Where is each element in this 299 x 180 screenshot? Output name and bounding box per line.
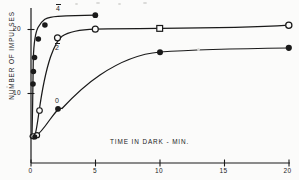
data-point xyxy=(31,69,37,75)
curve-label-0-text: 0 xyxy=(55,97,59,104)
curve-label-2-text: 2 xyxy=(55,44,59,51)
data-point xyxy=(157,49,163,55)
x-axis-title: TIME IN DARK - MIN. xyxy=(110,138,189,145)
y-tick-label-10: 10 xyxy=(13,89,21,96)
data-point xyxy=(37,108,43,114)
data-point xyxy=(30,81,36,87)
data-point xyxy=(32,134,37,139)
data-point xyxy=(286,22,292,28)
scan-speck xyxy=(75,3,78,5)
x-tick-label-20: 20 xyxy=(284,167,292,174)
scan-speck xyxy=(6,86,8,88)
x-tick-label-15: 15 xyxy=(220,167,228,174)
scan-speck xyxy=(143,2,147,4)
series-line-4 xyxy=(32,15,95,136)
figure-panel: NUMBER OF IMPULSES TIME IN DARK - MIN. 2… xyxy=(0,0,299,180)
data-point xyxy=(286,45,292,51)
x-tick-label-0: 0 xyxy=(29,167,33,174)
scan-speck xyxy=(96,2,100,4)
y-tick-label-20: 20 xyxy=(13,25,21,32)
data-point xyxy=(42,22,48,28)
curve-label-2: 2 xyxy=(55,43,60,51)
data-point xyxy=(92,12,98,18)
curve-label-4-text: 4 xyxy=(56,5,60,12)
scan-speck xyxy=(197,48,200,51)
data-point xyxy=(36,36,42,42)
data-point xyxy=(157,26,163,32)
series-line-0 xyxy=(32,48,289,137)
data-point xyxy=(55,106,61,112)
plot-area xyxy=(0,0,299,180)
scan-speck xyxy=(118,3,121,5)
data-point xyxy=(55,35,61,41)
x-tick-label-10: 10 xyxy=(155,167,163,174)
curve-label-4: 4 xyxy=(56,4,61,12)
series-line-2 xyxy=(32,25,289,136)
data-point xyxy=(92,26,98,32)
data-point xyxy=(32,55,38,61)
x-tick-label-5: 5 xyxy=(93,167,97,174)
curve-label-0: 0 xyxy=(55,97,59,104)
